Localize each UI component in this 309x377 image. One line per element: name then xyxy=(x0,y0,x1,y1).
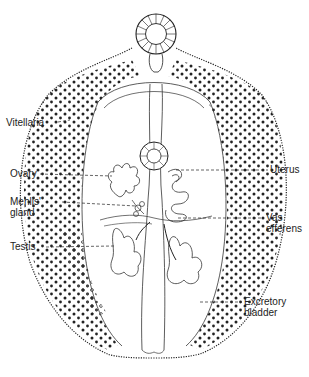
fluke-diagram: Vitellaria Ovary Mehlis'gland Testis Ute… xyxy=(0,0,309,377)
label-uterus: Uterus xyxy=(270,164,299,175)
oral-sucker xyxy=(136,14,176,54)
ovary xyxy=(108,164,139,197)
mehlis-gland xyxy=(132,200,145,217)
label-excretory-bladder: Excretorybladder xyxy=(244,296,286,318)
label-vitellaria: Vitellaria xyxy=(6,117,44,128)
label-ovary: Ovary xyxy=(10,168,37,179)
uterus xyxy=(165,169,188,222)
ventral-sucker xyxy=(140,142,168,170)
label-mehlis-gland: Mehlis'gland xyxy=(10,196,41,218)
label-vas-efferens: Vasefferens xyxy=(266,212,302,234)
label-testis: Testis xyxy=(10,241,36,252)
testes xyxy=(111,228,202,283)
fluke-illustration xyxy=(0,0,309,377)
